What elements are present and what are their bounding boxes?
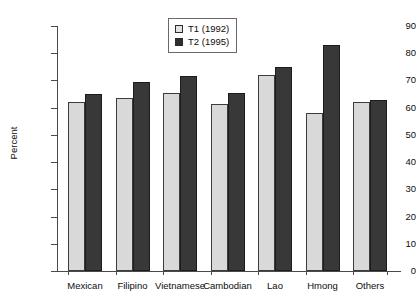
x-axis-line bbox=[57, 271, 401, 272]
legend-label-t1: T1 (1992) bbox=[188, 24, 229, 34]
x-axis-label-others: Others bbox=[334, 280, 406, 291]
bar-others-t1 bbox=[353, 102, 370, 271]
y-axis-tick-mark bbox=[51, 244, 57, 245]
bar-lao-t2 bbox=[275, 67, 292, 271]
x-axis-tick-mark bbox=[353, 271, 354, 275]
y-axis-tick-label: 80 bbox=[370, 48, 416, 58]
legend-item-t2: T2 (1995) bbox=[175, 35, 229, 48]
bar-mexican-t1 bbox=[68, 102, 85, 271]
legend-label-t2: T2 (1995) bbox=[188, 37, 229, 47]
x-axis-tick-mark bbox=[116, 271, 117, 275]
y-axis-title: Percent bbox=[9, 113, 19, 173]
x-axis-tick-mark bbox=[306, 271, 307, 275]
bar-lao-t1 bbox=[258, 75, 275, 271]
y-axis-tick-mark bbox=[51, 135, 57, 136]
bar-filipino-t2 bbox=[133, 82, 150, 271]
y-axis-tick-mark bbox=[51, 53, 57, 54]
bar-cambodian-t2 bbox=[228, 93, 245, 271]
legend-item-t1: T1 (1992) bbox=[175, 22, 229, 35]
y-axis-tick-mark bbox=[51, 217, 57, 218]
y-axis-tick-label: 90 bbox=[370, 21, 416, 31]
bar-cambodian-t1 bbox=[211, 104, 228, 271]
x-axis-tick-mark bbox=[387, 271, 388, 275]
x-axis-tick-mark bbox=[211, 271, 212, 275]
y-axis-tick-mark bbox=[51, 162, 57, 163]
chart-legend: T1 (1992) T2 (1995) bbox=[168, 18, 237, 53]
y-axis-tick-mark bbox=[51, 189, 57, 190]
x-axis-tick-mark bbox=[68, 271, 69, 275]
bar-vietnamese-t1 bbox=[163, 93, 180, 271]
y-axis-tick-mark bbox=[51, 26, 57, 27]
bar-filipino-t1 bbox=[116, 98, 133, 271]
y-axis-tick-label: 70 bbox=[370, 75, 416, 85]
bar-others-t2 bbox=[370, 100, 387, 272]
dark-square-swatch-icon bbox=[175, 38, 183, 46]
y-axis-line bbox=[57, 26, 58, 272]
bar-hmong-t2 bbox=[323, 45, 340, 271]
bar-hmong-t1 bbox=[306, 113, 323, 271]
light-square-swatch-icon bbox=[175, 25, 183, 33]
bar-chart: Percent 0102030405060708090 MexicanFilip… bbox=[0, 0, 416, 304]
y-axis-tick-mark bbox=[51, 80, 57, 81]
bar-mexican-t2 bbox=[85, 94, 102, 271]
x-axis-tick-mark bbox=[258, 271, 259, 275]
x-axis-tick-mark bbox=[163, 271, 164, 275]
y-axis-tick-mark bbox=[51, 108, 57, 109]
bar-vietnamese-t2 bbox=[180, 76, 197, 271]
